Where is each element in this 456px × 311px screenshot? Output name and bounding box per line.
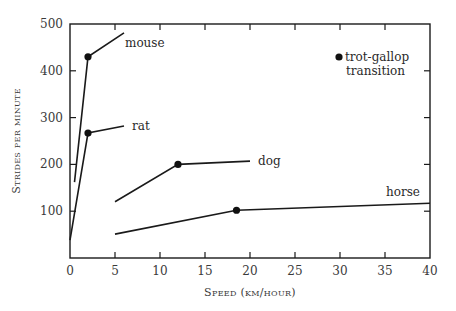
x-tick-label: 15 [197,264,212,278]
x-tick-label: 30 [332,264,347,278]
x-tick-label: 5 [111,264,119,278]
x-tick-label: 10 [152,264,167,278]
series-label-rat: rat [132,119,150,133]
legend: trot-gallop transition [335,50,409,78]
y-tick-label: 300 [40,111,63,125]
series-line-mouse [75,33,125,182]
legend-label-line2: transition [346,64,405,78]
y-tick-label: 400 [40,64,63,78]
transition-point-horse [233,207,240,214]
series-label-horse: horse [386,185,420,199]
legend-label-line1: trot-gallop [345,50,409,64]
chart: 0510152025303540 100200300400500 mousera… [0,0,456,311]
y-axis-title: Strides per minute [10,88,23,194]
x-tick-label: 40 [422,264,437,278]
series-line-horse [115,203,430,234]
x-tick-label: 0 [66,264,74,278]
y-tick-label: 500 [40,17,63,31]
series-label-mouse: mouse [125,36,165,50]
transition-point-rat [84,129,91,136]
transition-point-mouse [84,53,91,60]
x-tick-label: 20 [242,264,257,278]
y-tick-label: 100 [40,204,63,218]
x-axis-title: Speed (km/hour) [204,286,296,299]
y-tick-label: 200 [40,157,63,171]
series-label-dog: dog [258,154,281,168]
transition-point-dog [174,161,181,168]
series-line-dog [115,161,250,202]
x-tick-label: 25 [287,264,302,278]
y-axis-ticks: 100200300400500 [40,17,430,218]
legend-marker-icon [335,53,342,60]
x-tick-label: 35 [377,264,392,278]
